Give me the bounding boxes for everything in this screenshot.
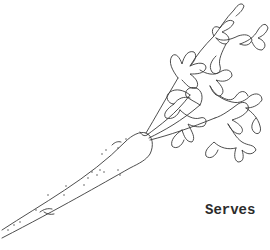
serves-label: Serves [205, 202, 255, 218]
carrot-body [2, 132, 152, 238]
